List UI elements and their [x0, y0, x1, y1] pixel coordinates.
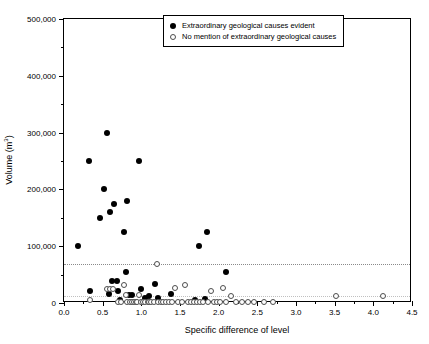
x-tick-minor [315, 301, 316, 304]
data-point-filled [107, 209, 113, 215]
data-point-open [217, 299, 223, 305]
data-point-open [179, 299, 185, 305]
data-point-open [228, 293, 234, 299]
y-tick-label: 500,000 [27, 15, 56, 24]
data-point-filled [168, 291, 174, 297]
y-tick-minor [61, 218, 64, 219]
y-tick [59, 189, 64, 190]
x-tick [296, 301, 297, 306]
data-point-open [182, 282, 188, 288]
data-point-filled [196, 243, 202, 249]
x-tick-label: 0.0 [58, 308, 69, 317]
data-point-open [154, 261, 160, 267]
data-point-filled [104, 130, 110, 136]
legend-label-open: No mention of extraordinary geological c… [182, 32, 336, 41]
data-point-filled [111, 201, 117, 207]
data-point-filled [123, 269, 129, 275]
reference-line-1 [64, 296, 410, 297]
data-point-filled [87, 288, 93, 294]
x-tick [64, 301, 65, 306]
plot-area: 0100,000200,000300,000400,000500,000 0.0… [63, 18, 411, 302]
data-point-open [118, 299, 124, 305]
data-point-open [251, 299, 257, 305]
x-tick-label: 3.0 [290, 308, 301, 317]
data-point-filled [136, 158, 142, 164]
data-point-open [333, 293, 339, 299]
data-point-open [208, 288, 214, 294]
x-tick-minor [393, 301, 394, 304]
x-tick-label: 2.5 [252, 308, 263, 317]
y-tick-label: 200,000 [27, 185, 56, 194]
data-point-open [123, 292, 129, 298]
y-tick [59, 133, 64, 134]
data-point-open [220, 285, 226, 291]
y-tick-label: 100,000 [27, 242, 56, 251]
data-point-filled [97, 215, 103, 221]
x-tick-minor [83, 301, 84, 304]
y-axis-title: Volume (m3) [3, 135, 14, 184]
legend-entry-open: No mention of extraordinary geological c… [170, 31, 336, 42]
data-point-filled [86, 158, 92, 164]
data-point-open [233, 299, 239, 305]
data-point-open [380, 293, 386, 299]
data-point-filled [223, 269, 229, 275]
y-tick-minor [61, 161, 64, 162]
x-axis-title: Specific difference of level [185, 325, 289, 335]
y-tick-label: 300,000 [27, 128, 56, 137]
legend-entry-filled: Extraordinary geological causes evident [170, 20, 336, 31]
data-point-filled [121, 229, 127, 235]
reference-line-0 [64, 264, 410, 265]
data-point-open [245, 299, 251, 305]
data-point-open [261, 299, 267, 305]
x-tick [257, 301, 258, 306]
data-point-open [239, 299, 245, 305]
data-point-open [270, 299, 276, 305]
legend-label-filled: Extraordinary geological causes evident [182, 21, 315, 30]
data-point-open [205, 299, 211, 305]
data-point-filled [152, 281, 158, 287]
data-point-filled [101, 186, 107, 192]
filled-circle-icon [170, 23, 176, 29]
data-point-open [136, 292, 142, 298]
x-tick [103, 301, 104, 306]
x-tick-minor [277, 301, 278, 304]
y-axis-title-exponent: 3 [3, 138, 9, 141]
x-tick [335, 301, 336, 306]
x-tick [373, 301, 374, 306]
data-point-open [169, 299, 175, 305]
data-point-filled [114, 278, 120, 284]
x-tick-label: 1.0 [136, 308, 147, 317]
y-tick [59, 246, 64, 247]
y-tick [59, 76, 64, 77]
x-tick-label: 3.5 [329, 308, 340, 317]
y-tick [59, 19, 64, 20]
data-point-filled [204, 229, 210, 235]
data-point-filled [115, 288, 121, 294]
y-tick-label: 400,000 [27, 71, 56, 80]
data-point-open [87, 297, 93, 303]
scatter-plot-figure: Volume (m3) 0100,000200,000300,000400,00… [0, 0, 429, 344]
x-tick-minor [354, 301, 355, 304]
data-point-open [223, 299, 229, 305]
data-point-filled [75, 243, 81, 249]
data-point-filled [138, 286, 144, 292]
x-tick-label: 1.5 [174, 308, 185, 317]
y-tick-minor [61, 47, 64, 48]
data-point-filled [124, 198, 130, 204]
data-point-open [121, 282, 127, 288]
x-tick-label: 0.5 [97, 308, 108, 317]
x-tick [412, 301, 413, 306]
data-point-open [172, 285, 178, 291]
y-tick-minor [61, 104, 64, 105]
y-tick-minor [61, 275, 64, 276]
x-tick-label: 4.0 [368, 308, 379, 317]
x-tick-label: 4.5 [406, 308, 417, 317]
chart-legend: Extraordinary geological causes evident … [163, 15, 344, 47]
y-tick-label: 0 [52, 299, 56, 308]
x-tick-label: 2.0 [213, 308, 224, 317]
open-circle-icon [170, 34, 176, 40]
